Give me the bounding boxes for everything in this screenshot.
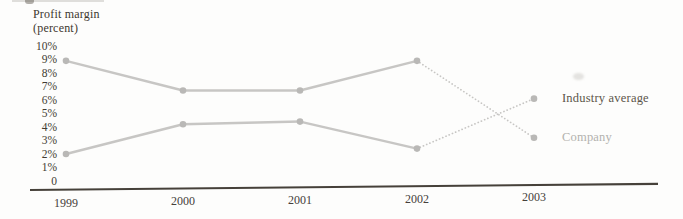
y-axis-tick-label: 6% [17,94,57,107]
y-axis-tick-label: 1% [17,161,57,174]
data-point [63,58,70,65]
x-axis-label: 2003 [506,190,562,204]
data-point [297,118,304,125]
x-axis-label: 2000 [155,194,211,208]
x-axis-line [30,184,658,190]
line-segment-industry-average [66,61,183,91]
y-axis-tick-label: 3% [17,134,57,147]
x-axis-label: 2002 [389,192,445,206]
line-segment-company [183,122,300,125]
profit-margin-figure: Profit margin (percent) Industry average… [0,0,683,219]
line-segment-industry-average [300,61,417,91]
y-axis-tick-label: 7% [17,80,57,93]
x-axis-label: 2001 [272,193,328,207]
y-axis-tick-label: 0 [17,175,69,188]
x-axis-label: 1999 [38,196,94,210]
line-segment-industry-average [417,61,534,138]
line-segment-company [300,122,417,149]
data-point [414,58,421,65]
data-point [63,151,70,158]
data-point [531,95,538,102]
profit-margin-chart [0,0,683,219]
data-point [180,87,187,94]
series-label-industry-average: Industry average [562,91,649,106]
data-point [531,135,538,142]
line-segment-company [417,99,534,149]
data-point [297,87,304,94]
y-axis-tick-label: 8% [17,67,57,80]
y-axis-tick-label: 4% [17,121,57,134]
y-axis-tick-label: 2% [17,148,57,161]
data-point [414,145,421,152]
y-axis-tick-label: 9% [17,53,57,66]
line-segment-company [66,124,183,154]
y-axis-tick-label: 10% [17,40,57,53]
series-label-company: Company [562,130,612,145]
y-axis-tick-label: 5% [17,107,57,120]
data-point [180,121,187,128]
